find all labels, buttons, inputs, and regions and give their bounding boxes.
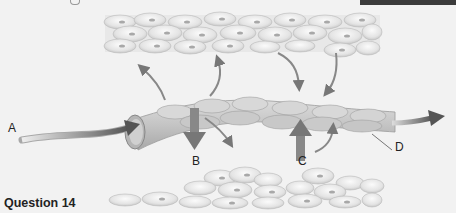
label-d-leader (372, 134, 392, 150)
bottom-tissue-layer (109, 167, 384, 209)
capillary-tube (125, 97, 395, 150)
label-b: B (192, 154, 200, 168)
arrow-exit (392, 118, 432, 123)
label-a: A (8, 121, 16, 135)
top-tissue-layer (104, 12, 382, 57)
question-title: Question 14 (4, 196, 76, 210)
capillary-diagram (0, 0, 456, 213)
label-c: C (298, 154, 307, 168)
label-d: D (395, 140, 404, 154)
